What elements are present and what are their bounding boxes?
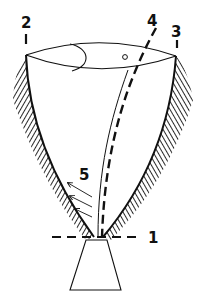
label-1: 1	[148, 229, 158, 247]
lens-cross-section	[26, 43, 176, 71]
label-3: 3	[171, 23, 181, 41]
label-4: 4	[147, 12, 157, 30]
arrow-icon	[68, 183, 92, 197]
eye-circle	[123, 55, 128, 60]
label-5: 5	[79, 166, 89, 184]
label-2: 2	[21, 14, 31, 32]
base-trapezoid	[70, 240, 121, 290]
funnel-diagram: 2 3 4 5 1	[0, 0, 208, 306]
right-hatched-wall	[103, 56, 193, 240]
